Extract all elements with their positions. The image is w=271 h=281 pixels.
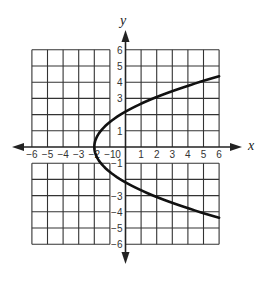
y-axis-label: y [118, 13, 127, 28]
y-tick-label: −5 [111, 223, 123, 234]
y-tick-label: 4 [117, 77, 123, 88]
y-tick-label: 3 [117, 93, 123, 104]
x-tick-label: −6 [26, 149, 38, 160]
origin-label: 0 [115, 149, 121, 160]
y-tick-label: −6 [111, 239, 123, 250]
x-tick-label: 6 [216, 149, 222, 160]
y-axis-up-arrow-icon [122, 30, 130, 42]
x-tick-label: −4 [57, 149, 69, 160]
x-tick-label: 4 [185, 149, 191, 160]
y-tick-label: −3 [111, 191, 123, 202]
x-axis-right-arrow-icon [230, 143, 242, 151]
x-tick-label: 5 [201, 149, 207, 160]
x-tick-label: −5 [42, 149, 54, 160]
y-tick-label: 1 [117, 126, 123, 137]
y-tick-label: −4 [111, 207, 123, 218]
x-tick-label: 1 [138, 149, 144, 160]
x-tick-label: 3 [170, 149, 176, 160]
axes [12, 30, 242, 264]
x-tick-label: −3 [73, 149, 85, 160]
x-axis-left-arrow-icon [12, 143, 24, 151]
y-axis-down-arrow-icon [122, 252, 130, 264]
y-tick-label: 5 [117, 61, 123, 72]
y-tick-label: 6 [117, 45, 123, 56]
x-tick-label: 2 [154, 149, 160, 160]
coordinate-plane: −6−5−4−3−2−112345665431−1−3−4−5−6 x y 0 [0, 0, 271, 281]
x-axis-label: x [247, 138, 255, 153]
